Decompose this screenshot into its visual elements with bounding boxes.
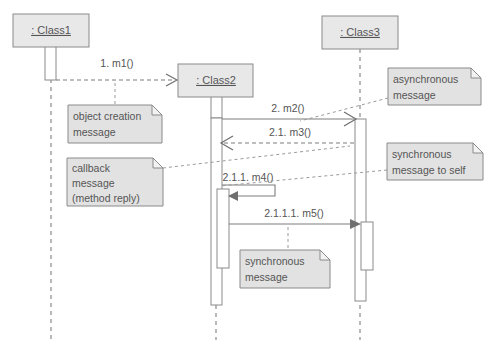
message-m2-label: 2. m2() bbox=[271, 102, 304, 114]
activation-class2-nested bbox=[217, 189, 229, 268]
note-asynchronous-line-2: message bbox=[393, 89, 436, 101]
message-m5: 2.1.1.1. m5() bbox=[229, 207, 361, 229]
uml-sequence-diagram: 1. m1() 2. m2() 2.1. m3() 2.1.1. m4() 2.… bbox=[0, 0, 485, 356]
note-synchronous-self[interactable]: synchronous message to self bbox=[387, 143, 483, 180]
note-object-creation-fold-icon bbox=[152, 105, 162, 115]
message-m3-label: 2.1. m3() bbox=[269, 126, 311, 138]
lifeline-box-class1[interactable]: : Class1 bbox=[13, 14, 89, 47]
note-synchronous-fold-icon bbox=[320, 250, 330, 260]
note-object-creation-line-2: message bbox=[73, 126, 116, 138]
message-m1-label: 1. m1() bbox=[100, 57, 133, 69]
note-synchronous-line-2: message bbox=[245, 271, 288, 283]
note-object-creation-line-1: object creation bbox=[73, 110, 141, 122]
note-callback[interactable]: callback message (method reply) bbox=[67, 158, 163, 206]
note-callback-line-1: callback bbox=[72, 162, 111, 174]
lifeline-box-class3-label: : Class3 bbox=[340, 26, 380, 38]
note-object-creation[interactable]: object creation message bbox=[68, 105, 162, 143]
lifeline-box-class3[interactable]: : Class3 bbox=[322, 16, 398, 49]
activation-class3-nested bbox=[361, 222, 373, 270]
note-asynchronous-line-1: asynchronous bbox=[393, 73, 458, 85]
message-m5-label: 2.1.1.1. m5() bbox=[264, 207, 324, 219]
note-anchor-callback bbox=[163, 146, 350, 168]
message-m1: 1. m1() bbox=[56, 57, 177, 86]
note-anchor-asynchronous bbox=[300, 98, 388, 121]
message-m4: 2.1.1. m4() bbox=[222, 171, 275, 201]
lifeline-box-class1-label: : Class1 bbox=[31, 24, 71, 36]
lifeline-box-class2[interactable]: : Class2 bbox=[178, 64, 253, 97]
note-asynchronous[interactable]: asynchronous message bbox=[388, 68, 481, 105]
activation-class3-main bbox=[355, 119, 366, 301]
message-m3: 2.1. m3() bbox=[221, 126, 354, 150]
lifeline-box-class2-label: : Class2 bbox=[196, 74, 236, 86]
message-m4-line bbox=[222, 185, 275, 196]
note-callback-line-3: (method reply) bbox=[72, 192, 140, 204]
note-callback-line-2: message bbox=[72, 177, 115, 189]
note-synchronous[interactable]: synchronous message bbox=[240, 250, 330, 288]
note-synchronous-self-line-2: message to self bbox=[392, 164, 466, 176]
note-callback-fold-icon bbox=[153, 158, 163, 168]
note-synchronous-self-line-1: synchronous bbox=[392, 148, 452, 160]
note-synchronous-line-1: synchronous bbox=[245, 255, 305, 267]
diagram-canvas: 1. m1() 2. m2() 2.1. m3() 2.1.1. m4() 2.… bbox=[0, 0, 485, 356]
note-asynchronous-fold-icon bbox=[471, 68, 481, 78]
note-synchronous-self-fold-icon bbox=[473, 143, 483, 153]
message-m2: 2. m2() bbox=[222, 102, 356, 126]
